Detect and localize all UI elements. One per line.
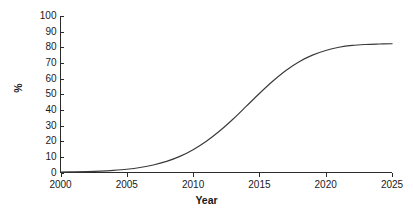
x-axis-ticks (62, 173, 393, 177)
y-tick-label: 70 (31, 58, 57, 68)
x-axis-title: Year (0, 194, 413, 206)
axes-group (60, 16, 392, 173)
y-tick-label: 80 (31, 42, 57, 52)
y-tick-label: 60 (31, 74, 57, 84)
y-tick-label: 40 (31, 105, 57, 115)
y-axis-ticks (61, 17, 65, 174)
x-tick-label: 2010 (173, 180, 213, 190)
data-series-line (61, 44, 393, 172)
x-tick-label: 2015 (239, 180, 279, 190)
x-tick-label: 2020 (306, 180, 346, 190)
x-tick-label: 2025 (372, 180, 412, 190)
y-axis-title: % (12, 76, 24, 100)
chart-container: 0102030405060708090100 20002005201020152… (0, 0, 413, 216)
y-tick-label: 0 (31, 168, 57, 178)
y-tick-label: 10 (31, 152, 57, 162)
y-tick-label: 30 (31, 121, 57, 131)
x-tick-label: 2000 (41, 180, 81, 190)
x-tick-label: 2005 (107, 180, 147, 190)
y-tick-label: 50 (31, 89, 57, 99)
y-tick-label: 90 (31, 27, 57, 37)
y-tick-label: 100 (31, 11, 57, 21)
y-tick-label: 20 (31, 136, 57, 146)
